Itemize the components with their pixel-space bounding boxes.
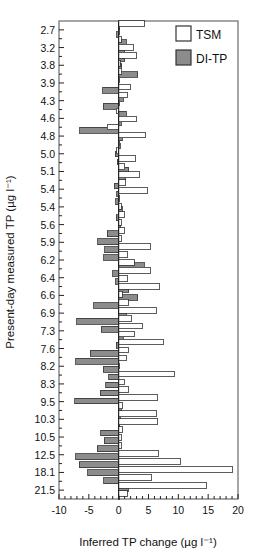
- x-tick-label: 5: [146, 504, 152, 516]
- y-tick-label: 18.1: [35, 466, 56, 478]
- y-tick-label: 3.2: [40, 42, 55, 54]
- y-tick-label: 6.6: [40, 289, 55, 301]
- y-tick-label: 7.3: [40, 325, 55, 337]
- legend-label-tsm: TSM: [196, 28, 221, 42]
- y-tick-label: 3.9: [40, 77, 55, 89]
- y-tick-label: 5.1: [40, 165, 55, 177]
- x-tick-label: 15: [202, 504, 214, 516]
- y-tick-label: 10.3: [35, 413, 56, 425]
- bar-chart: -10-505101520 2.73.23.83.94.34.64.85.05.…: [0, 0, 253, 553]
- x-tick-label: -5: [84, 504, 93, 516]
- legend-swatch-tsm: [176, 26, 191, 41]
- legend-label-di-tp: DI-TP: [196, 52, 227, 66]
- y-tick-label: 5.4: [40, 201, 55, 213]
- y-tick-label: 3.8: [40, 59, 55, 71]
- y-tick-label: 12.5: [35, 449, 56, 461]
- y-tick-label: 9.5: [40, 396, 55, 408]
- y-tick-label: 5.6: [40, 219, 55, 231]
- legend-swatch-di-tp: [176, 50, 191, 65]
- x-tick-label: 20: [232, 504, 244, 516]
- y-tick-label: 4.6: [40, 112, 55, 124]
- y-tick-label: 2.7: [40, 24, 55, 36]
- y-tick-label: 7.6: [40, 343, 55, 355]
- x-axis-title: Inferred TP change (µg l⁻¹): [79, 536, 217, 548]
- y-tick-label: 5.9: [40, 236, 55, 248]
- y-tick-label: 10.5: [35, 431, 56, 443]
- y-tick-label: 8.2: [40, 360, 55, 372]
- x-tick-label: -10: [51, 504, 66, 516]
- y-tick-label: 21.5: [35, 484, 56, 496]
- x-tick-label: 0: [116, 504, 122, 516]
- figure-root: -10-505101520 2.73.23.83.94.34.64.85.05.…: [0, 0, 253, 553]
- y-tick-label: 4.8: [40, 130, 55, 142]
- y-tick-label: 6.4: [40, 272, 55, 284]
- x-tick-label: 10: [172, 504, 184, 516]
- y-tick-label: 6.9: [40, 307, 55, 319]
- y-tick-label: 6.2: [40, 254, 55, 266]
- y-axis-title: Present-day measured TP (µg l⁻¹): [4, 175, 16, 348]
- y-tick-label: 5.0: [40, 148, 55, 160]
- y-tick-label: 5.4: [40, 183, 55, 195]
- y-tick-label: 8.3: [40, 378, 55, 390]
- y-tick-label: 4.3: [40, 95, 55, 107]
